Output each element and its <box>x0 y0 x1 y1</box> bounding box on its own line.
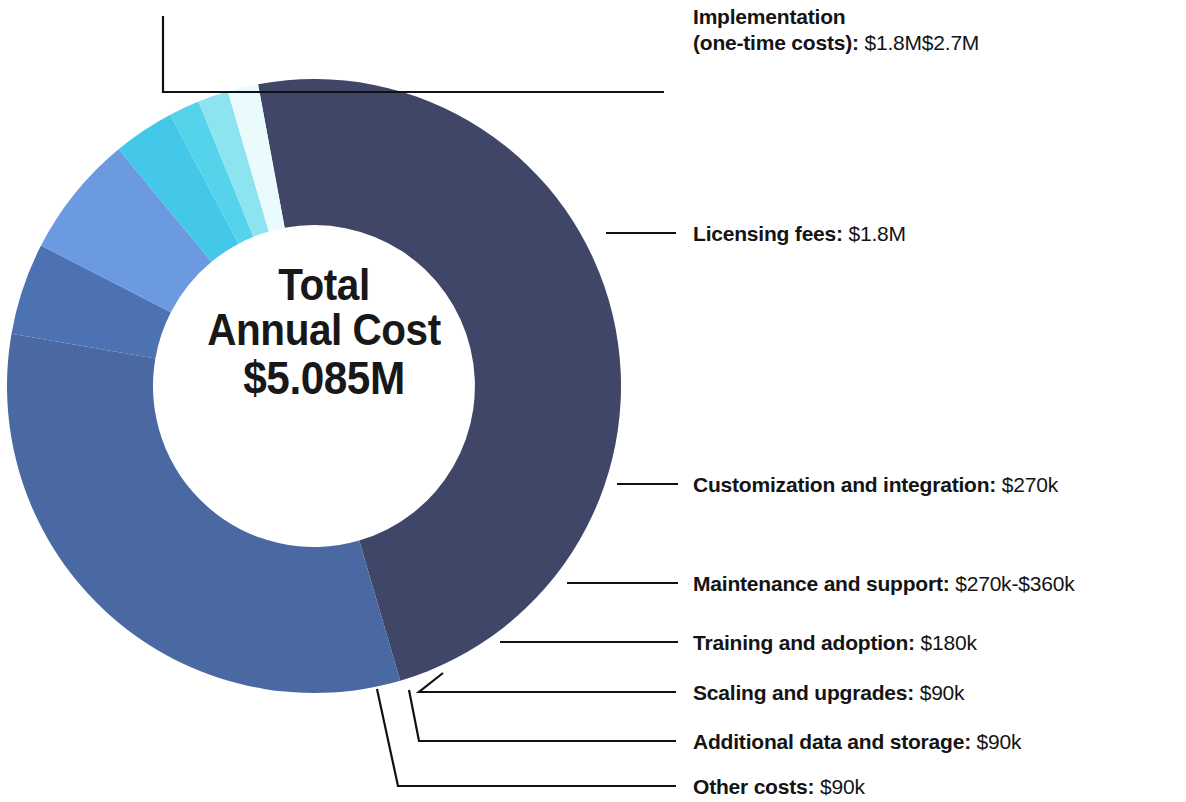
callout-additional-data-value: $90k <box>977 730 1022 753</box>
center-title-line2: Annual Cost <box>176 307 472 352</box>
callout-training-label: Training and adoption: <box>693 631 915 654</box>
callout-implementation-label-line1: Implementation <box>693 5 845 28</box>
callout-training: Training and adoption: $180k <box>693 630 977 656</box>
callout-other-costs-label: Other costs: <box>693 775 814 798</box>
callout-other-costs: Other costs: $90k <box>693 774 865 800</box>
callout-scaling-value: $90k <box>920 681 965 704</box>
callout-customization: Customization and integration: $270k <box>693 472 1058 498</box>
leader-line-additional-data <box>409 690 676 741</box>
leader-line-other-costs <box>377 689 676 786</box>
callout-scaling: Scaling and upgrades: $90k <box>693 680 964 706</box>
callout-customization-value: $270k <box>1002 473 1058 496</box>
callout-other-costs-value: $90k <box>820 775 865 798</box>
callout-scaling-label: Scaling and upgrades: <box>693 681 914 704</box>
callout-additional-data: Additional data and storage: $90k <box>693 729 1021 755</box>
leader-line-implementation <box>163 16 664 92</box>
callout-implementation: Implementation (one-time costs): $1.8M$2… <box>693 4 1113 55</box>
callout-additional-data-label: Additional data and storage: <box>693 730 971 753</box>
center-total-value: $5.085M <box>176 355 472 402</box>
callout-licensing: Licensing fees: $1.8M <box>693 221 906 247</box>
callout-licensing-label: Licensing fees: <box>693 222 843 245</box>
donut-center-label: Total Annual Cost $5.085M <box>163 262 485 402</box>
callout-maintenance-value: $270k-$360k <box>955 572 1074 595</box>
callout-customization-label: Customization and integration: <box>693 473 996 496</box>
callout-implementation-label-line2: (one-time costs): <box>693 31 859 54</box>
callout-implementation-value: $1.8M$2.7M <box>864 31 979 54</box>
donut-chart: Total Annual Cost $5.085M Implementation… <box>0 0 1186 802</box>
leader-line-scaling <box>419 673 676 692</box>
callout-licensing-value: $1.8M <box>849 222 906 245</box>
callout-maintenance: Maintenance and support: $270k-$360k <box>693 571 1074 597</box>
callout-maintenance-label: Maintenance and support: <box>693 572 950 595</box>
callout-training-value: $180k <box>921 631 977 654</box>
center-title-line1: Total <box>176 262 472 307</box>
